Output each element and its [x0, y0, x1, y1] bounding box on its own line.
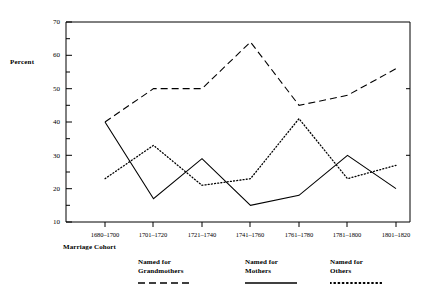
legend-item-grandmothers: Named for Grandmothers — [138, 258, 233, 285]
legend-item-mothers: Named for Mothers — [245, 258, 340, 285]
y-tick-label-30: 30 — [38, 152, 60, 160]
legend-label-grandmothers-line2: Grandmothers — [138, 267, 233, 276]
legend-label-others-line1: Named for — [330, 258, 425, 267]
x-axis-label: Marriage Cohort — [63, 243, 116, 251]
y-tick-label-70: 70 — [38, 18, 60, 26]
y-tick-label-20: 20 — [38, 185, 60, 193]
y-tick-label-40: 40 — [38, 118, 60, 126]
y-major-ticks — [66, 22, 72, 222]
legend-item-others: Named for Others — [330, 258, 425, 285]
y-right-ticks — [406, 89, 410, 156]
chart-figure: Percent Marriage Cohort 70 60 50 40 30 2… — [0, 0, 428, 295]
y-tick-label-60: 60 — [38, 51, 60, 59]
x-ticks — [105, 222, 396, 227]
legend-label-others-line2: Others — [330, 267, 425, 276]
series-line-mothers — [105, 122, 396, 205]
y-tick-label-50: 50 — [38, 85, 60, 93]
legend-swatch-mothers-solid-icon — [245, 281, 297, 285]
legend-label-grandmothers-line1: Named for — [138, 258, 233, 267]
legend-label-mothers-line2: Mothers — [245, 267, 340, 276]
y-axis-label: Percent — [10, 58, 34, 66]
series-line-others — [105, 119, 396, 186]
y-tick-label-10: 10 — [38, 218, 60, 226]
x-tick-label-6: 1801–1820 — [366, 231, 426, 238]
legend-swatch-others-dotted-icon — [330, 281, 382, 285]
series-line-grandmothers — [105, 42, 396, 122]
legend-swatch-grandmothers-dashed-icon — [138, 281, 190, 285]
legend-label-mothers-line1: Named for — [245, 258, 340, 267]
